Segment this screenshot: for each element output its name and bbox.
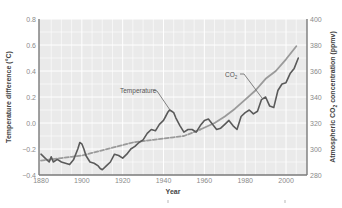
x-tick-label: 1900 [74,177,90,184]
x-tick-label: 1960 [197,177,213,184]
left-tick-labels: −0.4−0.20.00.20.40.60.8 [22,16,36,179]
x-tick-label: 1880 [33,177,49,184]
left-tick-label: 0.4 [26,68,36,75]
right-axis-title: Atmospheric CO2 concentration (ppmv) [329,31,338,163]
x-tick-label: 1920 [115,177,131,184]
left-tick-label: 0.2 [26,94,36,101]
left-tick-label: 0.0 [26,120,36,127]
right-tick-label: 280 [310,172,322,179]
right-tick-label: 360 [310,68,322,75]
right-tick-label: 320 [310,120,322,127]
temperature-label: Temperature [120,87,157,95]
x-axis-title: Year [166,188,181,195]
x-tick-label: 2000 [278,177,294,184]
right-tick-labels: 280300320340360380400 [310,16,322,179]
left-axis-title: Temperature difference (°C) [5,51,13,143]
left-tick-label: −0.2 [22,146,36,153]
x-tick-label: 1980 [237,177,253,184]
right-tick-label: 300 [310,146,322,153]
right-tick-label: 380 [310,42,322,49]
right-tick-label: 400 [310,16,322,23]
left-tick-label: 0.6 [26,42,36,49]
left-tick-label: 0.8 [26,16,36,23]
temperature-co2-chart: −0.4−0.20.00.20.40.60.8 2803003203403603… [0,0,342,208]
x-tick-label: 1940 [156,177,172,184]
x-tick-labels: 1880190019201940196019802000 [33,177,294,184]
right-tick-label: 340 [310,94,322,101]
